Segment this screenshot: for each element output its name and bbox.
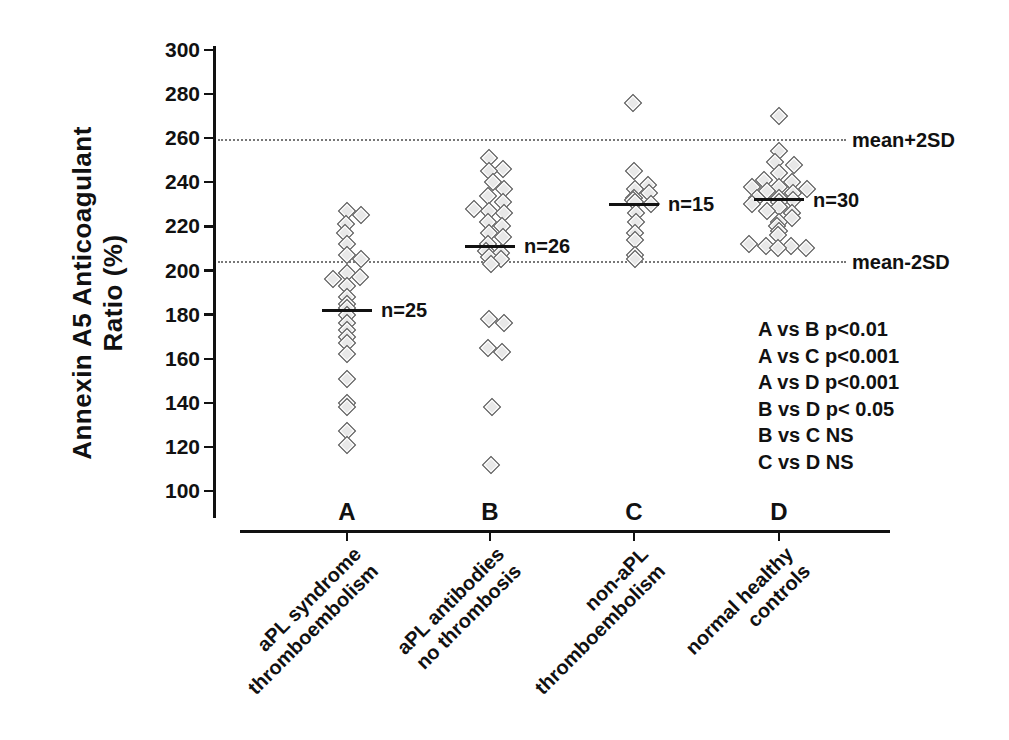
y-axis-tick [204,137,213,139]
y-axis-title-line1: Annexin A5 Anticoagulant [67,43,98,543]
y-axis-tick-label: 140 [148,392,200,414]
stats-line: A vs C p<0.001 [758,343,899,370]
y-axis-tick-label: 200 [148,260,200,282]
stats-annotation-block: A vs B p<0.01A vs C p<0.001A vs D p<0.00… [758,316,899,475]
stats-line: B vs C NS [758,422,899,449]
y-axis-tick [204,402,213,404]
reference-line-label-lower: mean-2SD [852,250,950,274]
n-count-label-A: n=25 [381,298,427,322]
stats-line: B vs D p< 0.05 [758,396,899,423]
y-axis-tick-label: 160 [148,348,200,370]
y-axis-tick-label: 260 [148,127,200,149]
data-point-diamond [338,369,356,387]
data-point-diamond [785,155,803,173]
y-axis-tick-label: 280 [148,83,200,105]
data-point-diamond [625,162,643,180]
y-axis-tick [204,446,213,448]
y-axis-tick-label: 180 [148,304,200,326]
y-axis-tick [204,93,213,95]
y-axis-tick [204,358,213,360]
x-axis-tick-B [489,530,491,541]
y-axis-tick-label: 100 [148,480,200,502]
data-point-diamond [740,235,758,253]
y-axis-tick [204,313,213,315]
group-letter-D: D [757,500,801,524]
y-axis-tick-label: 240 [148,171,200,193]
group-letter-C: C [612,500,656,524]
y-axis-tick [204,490,213,492]
n-count-label-D: n=30 [813,188,859,212]
group-letter-A: A [325,500,369,524]
y-axis-line [213,46,216,518]
mean-bar-C [609,203,659,206]
data-point-diamond [797,239,815,257]
y-axis-tick [204,225,213,227]
data-point-diamond [495,314,513,332]
data-point-diamond [624,94,642,112]
y-axis-tick-label: 220 [148,215,200,237]
data-point-diamond [482,455,500,473]
y-axis-tick [204,49,213,51]
n-count-label-C: n=15 [668,192,714,216]
y-axis-tick-label: 300 [148,39,200,61]
n-count-label-B: n=26 [524,234,570,258]
y-axis-tick [204,269,213,271]
stats-line: A vs B p<0.01 [758,316,899,343]
data-point-diamond [338,435,356,453]
mean-bar-D [754,198,804,201]
mean-bar-A [322,309,372,312]
data-point-diamond [770,107,788,125]
y-axis-title-line2: Ratio (%) [98,43,129,543]
mean-bar-B [465,245,515,248]
reference-dotted-line-lower [218,261,846,263]
x-axis-tick-A [346,530,348,541]
x-axis-tick-C [633,530,635,541]
data-point-diamond [480,310,498,328]
data-point-diamond [483,398,501,416]
group-letter-B: B [468,500,512,524]
y-axis-title: Annexin A5 Anticoagulant Ratio (%) [67,43,137,543]
x-axis-line [240,530,890,533]
data-point-diamond [338,345,356,363]
stats-line: A vs D p<0.001 [758,369,899,396]
reference-line-label-upper: mean+2SD [852,128,955,152]
y-axis-tick [204,181,213,183]
x-axis-tick-D [778,530,780,541]
reference-dotted-line-upper [218,139,846,141]
y-axis-tick-label: 120 [148,436,200,458]
annexin-a5-scatter-figure: Annexin A5 Anticoagulant Ratio (%) 30028… [0,0,1009,740]
stats-line: C vs D NS [758,449,899,476]
